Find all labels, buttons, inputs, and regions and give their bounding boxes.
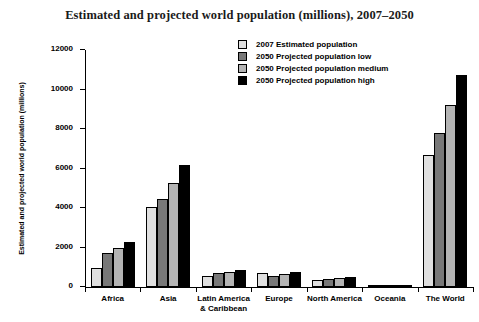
- bar[interactable]: [91, 268, 102, 287]
- bar[interactable]: [434, 133, 445, 287]
- x-axis-label-line: & Caribbean: [196, 304, 251, 314]
- bar[interactable]: [157, 199, 168, 287]
- bar[interactable]: [113, 248, 124, 287]
- bar[interactable]: [168, 183, 179, 287]
- bar[interactable]: [345, 277, 356, 287]
- legend-swatch-icon: [238, 40, 247, 49]
- x-axis-tick: [418, 287, 419, 292]
- bar-group-bars: [418, 50, 473, 287]
- legend-item[interactable]: 2050 Projected population high: [238, 74, 388, 86]
- bar[interactable]: [323, 279, 334, 287]
- bar[interactable]: [257, 273, 268, 287]
- bar[interactable]: [268, 276, 279, 287]
- legend-item-label: 2050 Projected population high: [256, 76, 375, 85]
- legend-item[interactable]: 2050 Projected population medium: [238, 62, 388, 74]
- bar-group: [85, 50, 140, 287]
- x-axis-line: [85, 287, 474, 288]
- bar[interactable]: [179, 165, 190, 287]
- chart-title: Estimated and projected world population…: [0, 8, 479, 23]
- bar[interactable]: [290, 272, 301, 287]
- x-axis-tick: [473, 287, 474, 292]
- bar[interactable]: [456, 75, 467, 287]
- y-axis-tick-label: 4000: [55, 201, 73, 212]
- bar[interactable]: [224, 272, 235, 287]
- x-axis-label: Oceania: [362, 294, 417, 304]
- x-axis-label: Latin America& Caribbean: [196, 294, 251, 314]
- x-axis-label-line: Africa: [85, 294, 140, 304]
- x-axis-label-line: North America: [307, 294, 362, 304]
- bar-group: [140, 50, 195, 287]
- bar[interactable]: [445, 105, 456, 287]
- x-axis-label-line: Europe: [251, 294, 306, 304]
- legend-swatch-icon: [238, 52, 247, 61]
- y-axis-tick-label: 10000: [51, 83, 73, 94]
- x-axis-tick: [196, 287, 197, 292]
- y-axis-tick-label: 8000: [55, 122, 73, 133]
- legend-item[interactable]: 2050 Projected population low: [238, 50, 388, 62]
- bar-group-bars: [85, 50, 140, 287]
- bar[interactable]: [423, 155, 434, 287]
- x-axis-label: Europe: [251, 294, 306, 304]
- chart-figure: Estimated and projected world population…: [0, 0, 479, 322]
- x-axis-label-line: The World: [418, 294, 473, 304]
- bar[interactable]: [202, 276, 213, 287]
- legend-swatch-icon: [238, 64, 247, 73]
- x-axis-tick: [140, 287, 141, 292]
- bar[interactable]: [379, 285, 390, 287]
- x-axis-label-line: Oceania: [362, 294, 417, 304]
- legend-item[interactable]: 2007 Estimated population: [238, 38, 388, 50]
- x-axis-label-line: Asia: [140, 294, 195, 304]
- x-axis-tick: [307, 287, 308, 292]
- bar[interactable]: [312, 280, 323, 287]
- bar[interactable]: [334, 278, 345, 287]
- x-axis-label-line: Latin America: [196, 294, 251, 304]
- x-axis-label: North America: [307, 294, 362, 304]
- legend-item-label: 2007 Estimated population: [256, 40, 357, 49]
- legend-swatch-icon: [238, 76, 247, 85]
- x-axis-label: Africa: [85, 294, 140, 304]
- x-axis-tick: [362, 287, 363, 292]
- bar[interactable]: [401, 285, 412, 287]
- bar[interactable]: [146, 207, 157, 287]
- bar[interactable]: [102, 253, 113, 287]
- bar[interactable]: [279, 274, 290, 287]
- x-axis-tick: [85, 287, 86, 292]
- y-axis-tick-label: 6000: [55, 162, 73, 173]
- x-axis-tick: [251, 287, 252, 292]
- chart-legend: 2007 Estimated population2050 Projected …: [238, 38, 388, 86]
- bar[interactable]: [213, 273, 224, 287]
- legend-item-label: 2050 Projected population low: [256, 52, 371, 61]
- bar[interactable]: [368, 285, 379, 287]
- bar[interactable]: [235, 270, 246, 287]
- bar[interactable]: [124, 242, 135, 287]
- y-axis-tick-label: 12000: [51, 43, 73, 54]
- x-axis-label: Asia: [140, 294, 195, 304]
- y-axis-tick-label: 0: [69, 280, 73, 291]
- bar[interactable]: [390, 285, 401, 287]
- x-axis-label: The World: [418, 294, 473, 304]
- bar-group-bars: [140, 50, 195, 287]
- y-axis-title: Estimated and projected world population…: [16, 50, 28, 287]
- y-axis-tick-label: 2000: [55, 241, 73, 252]
- bar-group: [418, 50, 473, 287]
- legend-item-label: 2050 Projected population medium: [256, 64, 388, 73]
